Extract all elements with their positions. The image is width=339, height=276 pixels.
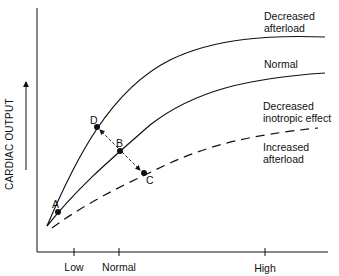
point-d-label: D bbox=[90, 114, 98, 126]
point-a-label: A bbox=[52, 198, 59, 210]
point-b-label: B bbox=[116, 137, 123, 149]
x-tick-label-normal: Normal bbox=[94, 261, 144, 273]
label-normal: Normal bbox=[264, 58, 298, 70]
diagram-canvas bbox=[0, 0, 339, 276]
label-increased-afterload: Increased afterload bbox=[263, 141, 309, 165]
x-tick-label-high: High bbox=[240, 262, 290, 274]
arrow-b-to-c bbox=[122, 152, 140, 170]
x-tick-label-low: Low bbox=[49, 261, 99, 273]
y-axis-label: CARDIAC OUTPUT bbox=[4, 98, 15, 190]
label-decreased-inotropic: Decreased inotropic effect bbox=[263, 100, 331, 124]
point-c-label: C bbox=[146, 174, 154, 186]
label-decreased-afterload: Decreased afterload bbox=[264, 10, 315, 34]
